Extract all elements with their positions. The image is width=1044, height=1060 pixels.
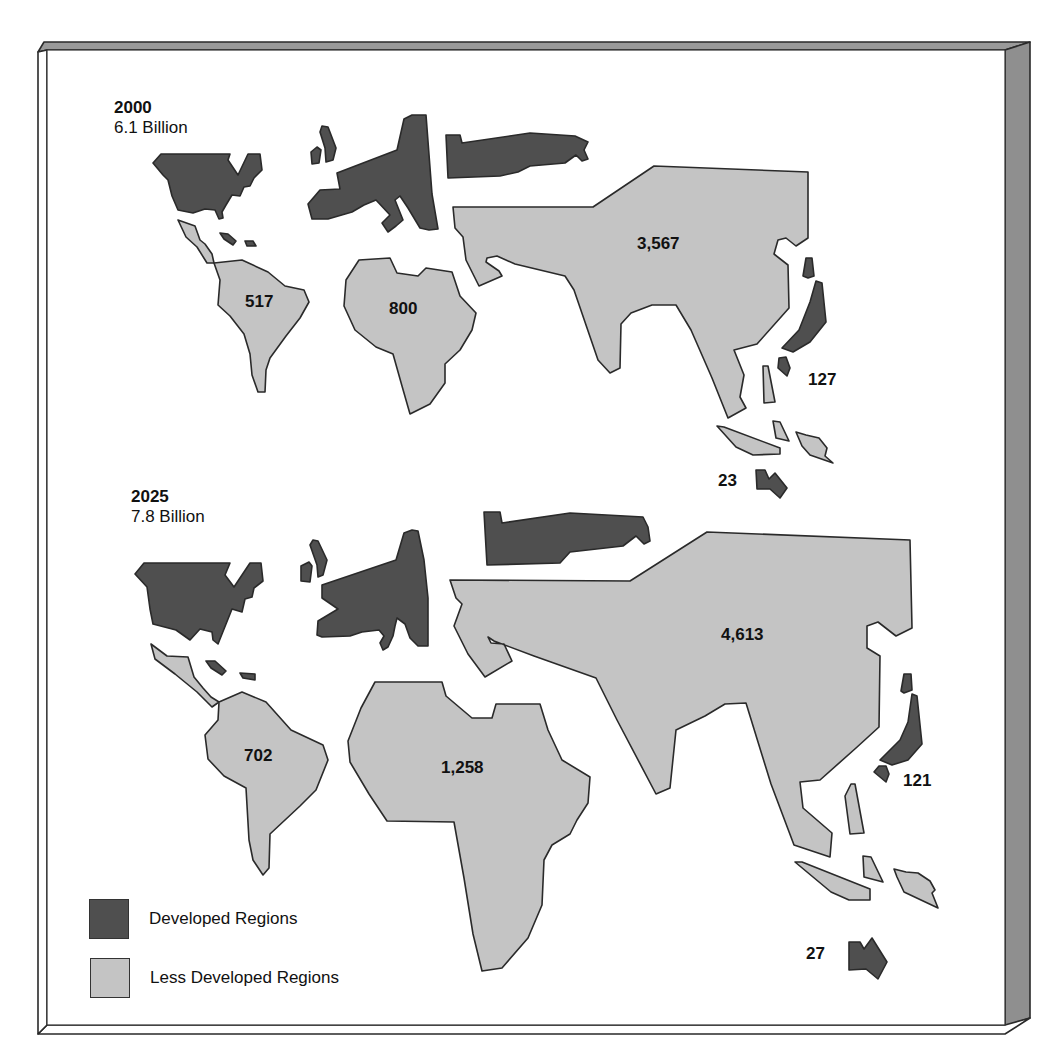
value-label-africa-2025: 1,258 bbox=[441, 758, 484, 778]
value-label-africa-2000: 800 bbox=[389, 299, 417, 319]
frame-right-bevel bbox=[1005, 42, 1030, 1026]
legend-swatch-developed bbox=[89, 899, 129, 939]
panel-year: 2025 bbox=[131, 487, 205, 507]
legend-item-developed: Developed Regions bbox=[89, 899, 297, 939]
panel-total: 6.1 Billion bbox=[114, 118, 188, 138]
value-label-latin-america-2000: 517 bbox=[245, 292, 273, 312]
legend-swatch-less-developed bbox=[90, 958, 130, 998]
value-label-oceania-2025: 27 bbox=[806, 944, 825, 964]
region-caribbean2-2000[interactable] bbox=[245, 241, 256, 246]
panel-total: 7.8 Billion bbox=[131, 507, 205, 527]
panel-title-2025: 2025 7.8 Billion bbox=[131, 487, 205, 527]
value-label-latin-america-2025: 702 bbox=[244, 746, 272, 766]
value-label-asia-2025: 4,613 bbox=[721, 625, 764, 645]
legend-label: Less Developed Regions bbox=[150, 968, 339, 988]
region-ireland-2025[interactable] bbox=[301, 562, 312, 582]
frame-left-bevel bbox=[38, 50, 47, 1034]
value-label-japan-2000: 127 bbox=[808, 370, 836, 390]
panel-title-2000: 2000 6.1 Billion bbox=[114, 98, 188, 138]
value-label-asia-2000: 3,567 bbox=[637, 234, 680, 254]
value-label-oceania-2000: 23 bbox=[718, 471, 737, 491]
legend-label: Developed Regions bbox=[149, 909, 297, 929]
panel-year: 2000 bbox=[114, 98, 188, 118]
value-label-japan-2025: 121 bbox=[903, 771, 931, 791]
legend-item-less-developed: Less Developed Regions bbox=[90, 958, 339, 998]
